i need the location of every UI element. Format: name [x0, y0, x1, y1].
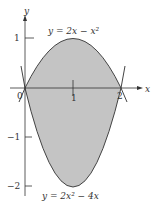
tick-label-ym1: −1 — [7, 132, 20, 142]
tick-label-y1: 1 — [14, 33, 20, 43]
shaded-region — [25, 39, 121, 188]
lower-curve-label: y = 2x² − 4x — [41, 191, 99, 201]
tick-label-x1: 1 — [71, 93, 77, 103]
tick-label-x2: 2 — [117, 91, 123, 101]
upper-curve-label: y = 2x − x² — [47, 26, 99, 36]
x-axis-arrow-icon — [137, 86, 143, 90]
origin-label: 0 — [17, 91, 23, 101]
chart-canvas: y x 1 −1 −2 1 2 0 y = 2x − x² y = 2x² − … — [0, 0, 163, 215]
y-axis-label: y — [23, 6, 30, 16]
tick-label-ym2: −2 — [7, 181, 20, 191]
x-axis-label: x — [145, 84, 150, 94]
